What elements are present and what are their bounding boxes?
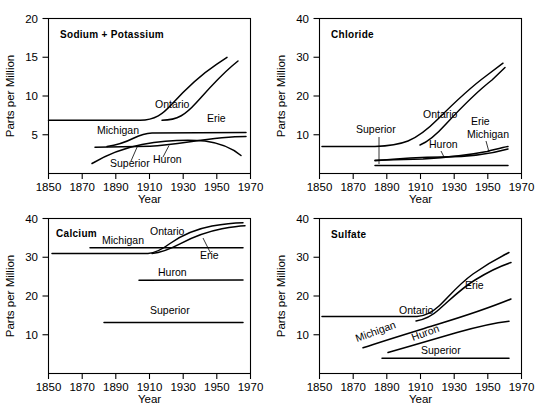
p2-title: Chloride <box>331 29 374 40</box>
p1-label-huron: Huron <box>153 153 182 165</box>
p2-xtick-2: 1890 <box>374 181 400 193</box>
p4-xtick-labels: 1850 1870 1890 1910 1930 1950 1970 <box>307 381 535 393</box>
p1-axes <box>43 19 251 180</box>
p1-xtick-3: 1910 <box>137 181 163 193</box>
p4-yaxis-label: Parts per Million <box>275 255 287 337</box>
p1-ytick-0: 20 <box>25 13 38 25</box>
panel-sodium-potassium: 20 15 10 5 1850 1870 1890 1910 1930 1950… <box>0 0 271 204</box>
p2-ytick-1: 30 <box>296 51 309 63</box>
p2-label-michigan: Michigan <box>467 128 509 140</box>
p2-label-ontario: Ontario <box>423 108 458 120</box>
p4-label-ontario: Ontario <box>399 304 434 316</box>
p1-label-erie: Erie <box>207 112 226 124</box>
p4-xtick-1: 1870 <box>340 381 366 393</box>
p2-series-labels: Ontario Erie Michigan Superior Huron <box>356 108 509 164</box>
p3-xtick-labels: 1850 1870 1890 1910 1930 1950 1970 <box>36 381 264 393</box>
p2-xtick-0: 1850 <box>307 181 333 193</box>
p4-label-huron: Huron <box>410 322 441 343</box>
p3-xaxis-label: Year <box>138 393 161 405</box>
p3-xtick-5: 1950 <box>204 381 230 393</box>
p1-xtick-2: 1890 <box>103 181 129 193</box>
panel-chloride: 40 30 20 10 1850 1870 1890 1910 1930 195… <box>271 0 543 204</box>
p2-label-superior: Superior <box>356 123 396 135</box>
p4-ytick-3: 10 <box>296 329 309 341</box>
p2-xtick-5: 1950 <box>475 181 501 193</box>
p1-xtick-4: 1930 <box>170 181 196 193</box>
p3-label-ontario: Ontario <box>150 225 185 237</box>
p2-ytick-0: 40 <box>296 13 309 25</box>
p4-xtick-0: 1850 <box>307 381 333 393</box>
p1-title: Sodium + Potassium <box>60 29 164 40</box>
p1-xtick-6: 1970 <box>238 181 264 193</box>
p1-xtick-1: 1870 <box>69 181 95 193</box>
p4-xtick-4: 1930 <box>441 381 467 393</box>
p4-title: Sulfate <box>331 229 367 240</box>
p4-label-erie: Erie <box>465 279 484 291</box>
p3-xtick-0: 1850 <box>36 381 62 393</box>
p4-xtick-6: 1970 <box>509 381 535 393</box>
p2-ytick-2: 20 <box>296 90 309 102</box>
p3-ytick-3: 10 <box>25 329 38 341</box>
p3-ytick-0: 40 <box>25 213 38 225</box>
p2-xtick-1: 1870 <box>340 181 366 193</box>
p3-series-labels: Ontario Erie Michigan Huron Superior <box>102 225 219 316</box>
p2-ytick-3: 10 <box>296 129 309 141</box>
p3-yaxis-label: Parts per Million <box>4 255 16 337</box>
p2-label-huron: Huron <box>429 138 458 150</box>
p1-ytick-2: 10 <box>25 90 38 102</box>
p2-leader-huron <box>441 151 444 157</box>
p1-yaxis-label: Parts per Million <box>4 55 16 137</box>
p1-label-superior: Superior <box>110 157 150 169</box>
p2-xtick-6: 1970 <box>509 181 535 193</box>
p1-curve-ontario <box>49 57 228 120</box>
p2-leader-michigan <box>486 141 489 152</box>
p2-xaxis-label: Year <box>409 193 432 204</box>
p3-label-michigan: Michigan <box>102 234 144 246</box>
p1-label-michigan: Michigan <box>97 124 139 136</box>
p1-xtick-5: 1950 <box>204 181 230 193</box>
p2-xtick-3: 1910 <box>408 181 434 193</box>
p3-title: Calcium <box>56 228 97 239</box>
p1-ytick-labels: 20 15 10 5 <box>25 13 38 141</box>
p1-curves <box>49 57 247 163</box>
p2-xtick-4: 1930 <box>441 181 467 193</box>
p1-curve-erie <box>162 61 238 120</box>
panel-calcium: 40 30 20 10 1850 1870 1890 1910 1930 195… <box>0 204 271 408</box>
p3-label-superior: Superior <box>150 304 190 316</box>
p3-xtick-3: 1910 <box>137 381 163 393</box>
panel-sulfate: 40 30 20 10 1850 1870 1890 1910 1930 195… <box>271 204 543 408</box>
p2-label-erie: Erie <box>471 115 490 127</box>
p4-xaxis-label: Year <box>409 393 432 405</box>
p2-yaxis-label: Parts per Million <box>275 55 287 137</box>
p1-xtick-labels: 1850 1870 1890 1910 1930 1950 1970 <box>36 181 264 193</box>
p4-ytick-2: 20 <box>296 290 309 302</box>
p4-xtick-5: 1950 <box>475 381 501 393</box>
p3-xtick-6: 1970 <box>238 381 264 393</box>
p3-axes <box>43 219 251 380</box>
p3-xtick-2: 1890 <box>103 381 129 393</box>
p2-xtick-labels: 1850 1870 1890 1910 1930 1950 1970 <box>307 181 535 193</box>
p4-label-superior: Superior <box>421 344 461 356</box>
p3-ytick-labels: 40 30 20 10 <box>25 213 38 341</box>
p1-xaxis-label: Year <box>138 193 161 204</box>
p3-xtick-1: 1870 <box>69 381 95 393</box>
p1-ytick-3: 5 <box>32 129 38 141</box>
p2-ytick-labels: 40 30 20 10 <box>296 13 309 141</box>
p4-axes <box>314 219 522 380</box>
p4-xtick-3: 1910 <box>408 381 434 393</box>
p3-ytick-1: 30 <box>25 251 38 263</box>
p4-ytick-labels: 40 30 20 10 <box>296 213 309 341</box>
p4-label-michigan: Michigan <box>354 318 398 344</box>
p1-label-ontario: Ontario <box>155 98 190 110</box>
p2-axes <box>314 19 522 180</box>
p3-label-huron: Huron <box>158 266 187 278</box>
p3-xtick-4: 1930 <box>170 381 196 393</box>
figure-panel-grid: 20 15 10 5 1850 1870 1890 1910 1930 1950… <box>0 0 543 408</box>
p4-xtick-2: 1890 <box>374 381 400 393</box>
p1-ytick-1: 15 <box>25 51 38 63</box>
p1-xtick-0: 1850 <box>36 181 62 193</box>
p3-ytick-2: 20 <box>25 290 38 302</box>
p4-ytick-0: 40 <box>296 213 309 225</box>
p4-ytick-1: 30 <box>296 251 309 263</box>
